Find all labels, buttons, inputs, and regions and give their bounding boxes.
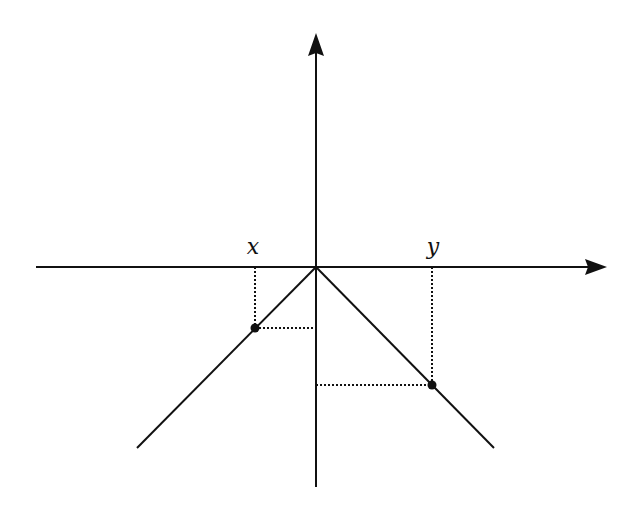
x-axis-arrow-icon xyxy=(585,259,607,275)
left-branch xyxy=(137,267,316,448)
y-axis xyxy=(308,33,324,487)
point-x-marker xyxy=(251,324,260,333)
point-y-label: y xyxy=(426,234,440,259)
point-x-group: x xyxy=(247,234,316,333)
point-y-group: y xyxy=(316,234,440,390)
right-branch xyxy=(316,267,494,448)
point-y-marker xyxy=(428,381,437,390)
y-axis-arrow-icon xyxy=(308,33,324,56)
diagram-canvas: x y xyxy=(0,0,635,505)
point-x-label: x xyxy=(247,234,260,259)
